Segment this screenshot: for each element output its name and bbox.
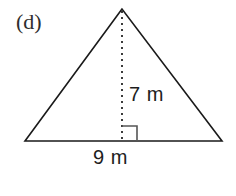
triangle-outline: [25, 9, 222, 141]
right-angle-icon: [122, 126, 137, 141]
base-dimension-label: 9 m: [93, 146, 128, 168]
part-label: (d): [16, 10, 42, 34]
triangle-figure: (d) 7 m 9 m: [0, 0, 236, 196]
height-dimension-label: 7 m: [129, 83, 164, 105]
